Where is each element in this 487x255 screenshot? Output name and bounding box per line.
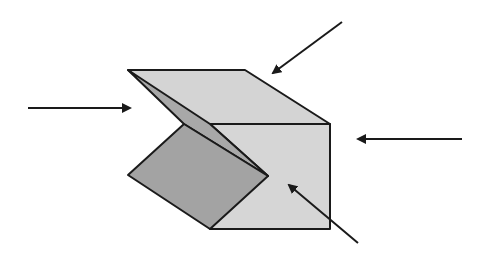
opened-box-diagram: [0, 0, 487, 255]
box: [128, 70, 330, 229]
top-arrow-icon: [273, 22, 342, 73]
